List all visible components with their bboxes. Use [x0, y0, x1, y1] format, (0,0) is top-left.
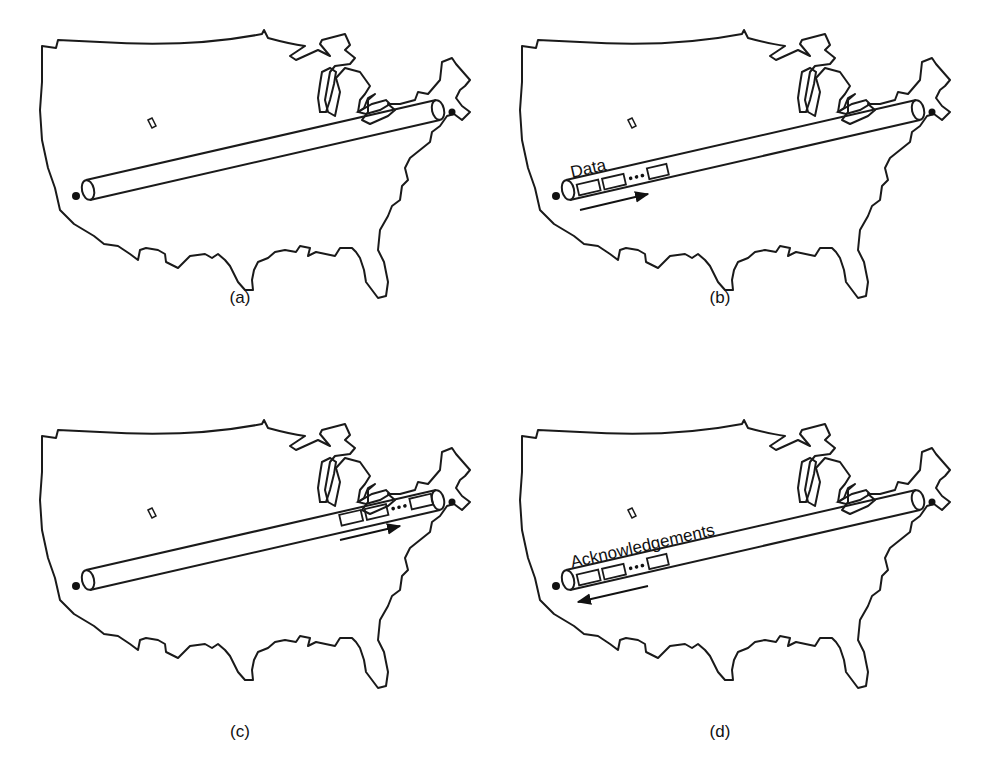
us-map-outline — [40, 420, 470, 688]
caption-b: (b) — [480, 288, 960, 308]
caption-c: (c) — [0, 722, 480, 742]
panel-c — [0, 390, 480, 750]
caption-a: (a) — [0, 288, 480, 308]
us-map-outline — [40, 30, 470, 298]
pipe — [552, 99, 936, 201]
panel-d: Acknowledgements — [480, 390, 960, 750]
us-map-diagram: Acknowledgements — [480, 390, 960, 710]
caption-d: (d) — [480, 722, 960, 742]
arrow-west-icon — [578, 586, 648, 602]
us-map-diagram — [0, 0, 480, 320]
pipe — [72, 489, 456, 591]
us-map-diagram — [0, 390, 480, 710]
us-map-diagram: Data — [480, 0, 960, 320]
pipe — [72, 99, 456, 201]
pipe — [552, 489, 936, 591]
arrow-east-icon — [340, 526, 400, 540]
